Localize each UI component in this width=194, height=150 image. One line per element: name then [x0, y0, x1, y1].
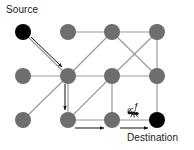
source-node[interactable] — [15, 24, 31, 40]
edge-diag-r1c2-r2c1 — [68, 76, 112, 120]
grid-node-r1c3[interactable] — [149, 68, 165, 84]
grid-node-r1c2[interactable] — [104, 68, 120, 84]
grid-node-r2c2[interactable] — [104, 112, 120, 128]
diagram-canvas: Source Destination — [0, 0, 194, 150]
source-label: Source — [6, 4, 38, 15]
grid-node-r1c1[interactable] — [60, 68, 76, 84]
edge-diag-r1c1-r2c0 — [23, 76, 68, 120]
grid-node-r2c1[interactable] — [60, 112, 76, 128]
grid-graph-svg — [0, 0, 194, 150]
grid-node-r0c1[interactable] — [60, 24, 76, 40]
grid-node-r2c0[interactable] — [15, 112, 31, 128]
grid-node-r0c3[interactable] — [149, 24, 165, 40]
edge-diag-source-r1c1 — [23, 32, 68, 76]
path-arrow-source-to-r1c1 — [31, 37, 62, 67]
destination-label: Destination — [127, 132, 178, 143]
ant-marker — [127, 103, 138, 117]
grid-node-r1c0[interactable] — [15, 68, 31, 84]
edge-diag-r0c2-r1c1 — [68, 32, 112, 76]
grid-node-r0c2[interactable] — [104, 24, 120, 40]
edges-layer — [23, 32, 157, 120]
destination-node[interactable] — [149, 112, 165, 128]
